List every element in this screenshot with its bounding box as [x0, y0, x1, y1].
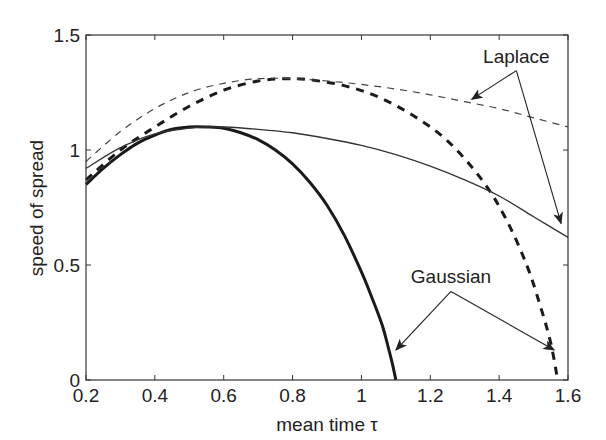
x-tick-label: 1.2: [417, 385, 443, 406]
series-gaussian-dashed: [86, 79, 558, 380]
x-axis-label: mean time τ: [276, 414, 378, 435]
x-tick-label: 1.6: [555, 385, 581, 406]
y-tick-label: 0: [69, 370, 80, 391]
x-tick-label: 0.6: [211, 385, 237, 406]
annotation-gaussian: Gaussian: [411, 266, 491, 287]
arrow-icon: [396, 291, 451, 350]
series-gaussian-solid: [86, 127, 396, 380]
y-tick-label: 0.5: [54, 255, 80, 276]
x-tick-label: 1: [356, 385, 367, 406]
y-tick-label: 1: [69, 140, 80, 161]
x-tick-label: 0.8: [279, 385, 305, 406]
annotation-layer: LaplaceGaussian: [396, 46, 561, 351]
series-layer: [86, 78, 568, 380]
series-laplace-solid: [86, 127, 568, 238]
x-tick-label: 1.4: [486, 385, 513, 406]
arrow-icon: [472, 71, 517, 100]
y-tick-label: 1.5: [54, 25, 80, 46]
series-laplace-dashed: [86, 78, 568, 161]
arrow-icon: [516, 71, 561, 224]
annotation-laplace: Laplace: [483, 46, 550, 67]
y-axis-label: speed of spread: [26, 140, 47, 276]
line-chart: LaplaceGaussian 0.20.40.60.811.21.41.600…: [0, 0, 606, 440]
x-tick-label: 0.4: [142, 385, 169, 406]
